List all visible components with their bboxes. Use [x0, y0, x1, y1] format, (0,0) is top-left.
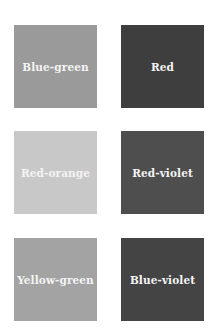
- swatch-red: Red: [121, 25, 204, 108]
- swatch-blue-violet: Blue-violet: [121, 238, 204, 321]
- swatch-label: Red: [151, 61, 174, 73]
- swatch-red-orange: Red-orange: [14, 131, 97, 214]
- swatch-yellow-green: Yellow-green: [14, 238, 97, 321]
- swatch-label: Yellow-green: [17, 274, 94, 286]
- swatch-label: Blue-violet: [130, 274, 195, 286]
- swatch-blue-green: Blue-green: [14, 25, 97, 108]
- swatch-label: Red-violet: [132, 167, 193, 179]
- swatch-label: Blue-green: [22, 61, 88, 73]
- swatch-label: Red-orange: [21, 167, 90, 179]
- swatch-red-violet: Red-violet: [121, 131, 204, 214]
